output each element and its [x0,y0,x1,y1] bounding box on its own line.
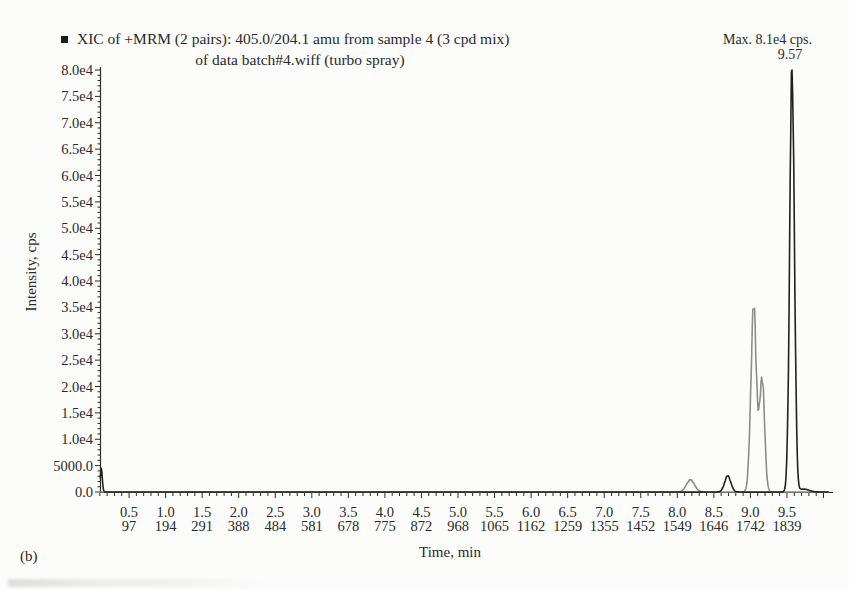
y-axis-tick-labels: 0.05000.01.0e41.5e42.0e42.5e43.0e43.5e44… [53,62,94,500]
y-tick-label: 6.0e4 [61,168,94,184]
x-tick-scan-label: 1549 [663,518,692,534]
x-tick-scan-label: 581 [301,518,323,534]
x-tick-scan-label: 291 [191,518,213,534]
x-tick-scan-label: 1162 [517,518,545,534]
figure-panel-label: (b) [20,548,38,565]
x-tick-scan-label: 1065 [480,518,509,534]
peak-retention-time-annotation: 9.57 [760,47,820,62]
x-tick-scan-label: 484 [264,518,287,534]
y-tick-label: 5.0e4 [61,220,94,236]
mrm-pair-black-trace [100,70,829,492]
chart-title-line1: XIC of +MRM (2 pairs): 405.0/204.1 amu f… [77,31,509,47]
y-tick-label: 6.5e4 [61,141,94,157]
y-tick-label: 4.5e4 [61,247,94,263]
y-tick-label: 0.0 [75,484,93,500]
y-tick-label: 7.5e4 [61,88,94,104]
x-tick-scan-label: 1259 [553,518,582,534]
y-axis-ticks [95,70,101,492]
y-tick-label: 5.5e4 [61,194,94,210]
y-tick-label: 2.5e4 [61,352,94,368]
y-tick-label: 1.0e4 [61,431,94,447]
chromatogram-plot: 0.05000.01.0e41.5e42.0e42.5e43.0e43.5e44… [0,0,849,590]
x-tick-scan-label: 1452 [626,518,655,534]
x-tick-scan-label: 1839 [772,518,801,534]
cropped-caption-artifact [8,579,268,587]
y-tick-label: 3.0e4 [61,326,94,342]
chromatogram-figure: 0.05000.01.0e41.5e42.0e42.5e43.0e43.5e44… [0,0,849,590]
x-tick-scan-label: 1742 [736,518,765,534]
x-tick-scan-label: 1355 [590,518,619,534]
x-tick-scan-label: 388 [228,518,250,534]
mrm-pair-gray-trace [100,308,829,492]
x-axis-tick-labels: 0.5971.01941.52912.03882.54843.05813.567… [120,504,801,534]
x-tick-scan-label: 775 [374,518,396,534]
x-tick-scan-label: 97 [122,518,137,534]
y-tick-label: 2.0e4 [61,379,94,395]
page: { "figure": { "panel_label": "(b)" }, "l… [0,0,849,590]
y-axis-title: Intensity, cps [23,232,40,311]
chart-title-line2: of data batch#4.wiff (turbo spray) [77,52,523,68]
x-tick-scan-label: 194 [155,518,178,534]
x-axis-title: Time, min [370,544,530,561]
x-tick-scan-label: 1646 [699,518,728,534]
axis-lines [100,67,833,493]
x-tick-scan-label: 678 [337,518,359,534]
y-tick-label: 1.5e4 [61,405,94,421]
y-tick-label: 4.0e4 [61,273,94,289]
y-tick-label: 7.0e4 [61,115,94,131]
x-tick-scan-label: 968 [447,518,469,534]
y-tick-label: 5000.0 [53,458,93,474]
y-tick-label: 3.5e4 [61,299,94,315]
legend-square-icon [61,36,68,43]
axes [100,67,833,493]
x-tick-scan-label: 872 [411,518,433,534]
x-axis-ticks [100,493,824,498]
max-intensity-annotation: Max. 8.1e4 cps. [652,32,812,47]
